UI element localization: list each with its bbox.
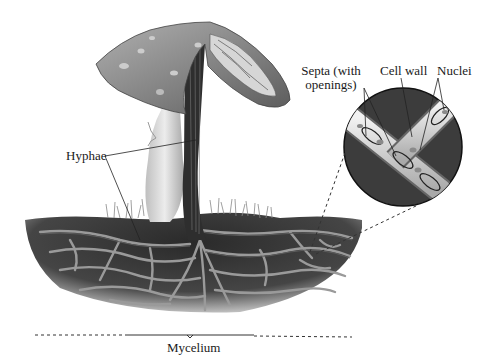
- mycelium-diagram: Septa (with openings) Cell wall Nuclei H…: [0, 0, 498, 362]
- label-septa-line2: openings): [297, 78, 365, 92]
- mycelium-bracket: [35, 335, 352, 338]
- label-hyphae: Hyphae: [66, 149, 106, 163]
- label-cell-wall: Cell wall: [380, 64, 427, 78]
- label-mycelium: Mycelium: [167, 341, 220, 355]
- label-septa: Septa (with openings): [297, 64, 365, 92]
- label-septa-line1: Septa (with: [297, 64, 365, 78]
- hyphae-magnified-inset: [344, 88, 462, 206]
- label-nuclei: Nuclei: [437, 64, 472, 78]
